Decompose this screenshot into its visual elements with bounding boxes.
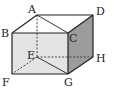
vertex-label-G: G xyxy=(64,76,73,89)
vertex-label-D: D xyxy=(96,5,105,18)
cuboid-diagram: A D B C E H F G xyxy=(0,0,114,94)
vertex-label-F: F xyxy=(2,76,10,89)
vertex-label-E: E xyxy=(27,49,35,62)
vertex-label-B: B xyxy=(1,27,9,40)
vertex-label-A: A xyxy=(27,3,37,16)
vertex-label-C: C xyxy=(69,32,77,45)
vertex-label-H: H xyxy=(96,52,106,65)
